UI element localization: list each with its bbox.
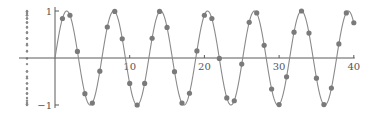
y-tick-label: 1 bbox=[46, 6, 52, 17]
y-tick-label: −1 bbox=[37, 100, 52, 111]
projection-dot bbox=[26, 92, 28, 94]
data-point bbox=[135, 102, 140, 107]
projection-dot bbox=[26, 26, 28, 28]
data-point bbox=[329, 85, 334, 90]
projection-dot bbox=[26, 22, 28, 24]
projection-dot bbox=[26, 100, 28, 102]
data-point bbox=[336, 41, 341, 46]
data-point bbox=[97, 69, 102, 74]
sine-sample-chart: 10203040 1−1 bbox=[0, 0, 373, 113]
data-point bbox=[179, 101, 184, 106]
data-point bbox=[150, 36, 155, 41]
data-point bbox=[247, 20, 252, 25]
data-point bbox=[209, 16, 214, 21]
projection-dot bbox=[26, 97, 28, 99]
data-point bbox=[82, 91, 87, 96]
data-point bbox=[239, 62, 244, 67]
projection-dot bbox=[26, 50, 28, 52]
x-tick-label: 40 bbox=[347, 61, 360, 72]
data-point bbox=[67, 13, 72, 18]
data-point bbox=[269, 86, 274, 91]
data-point bbox=[127, 81, 132, 86]
data-point bbox=[254, 10, 259, 15]
data-point bbox=[224, 95, 229, 100]
projection-dot bbox=[26, 12, 28, 14]
data-point bbox=[262, 43, 267, 48]
x-tick-label: 10 bbox=[123, 61, 136, 72]
data-point bbox=[105, 24, 110, 29]
projection-dot bbox=[26, 70, 28, 72]
data-point bbox=[75, 49, 80, 54]
projection-dot bbox=[26, 32, 28, 34]
projection-dot bbox=[26, 37, 28, 39]
data-point bbox=[284, 74, 289, 79]
data-point bbox=[351, 20, 356, 25]
data-point bbox=[306, 30, 311, 35]
projection-dot bbox=[26, 103, 28, 105]
data-point bbox=[157, 9, 162, 14]
data-point bbox=[172, 69, 177, 74]
data-point bbox=[321, 102, 326, 107]
data-point bbox=[299, 8, 304, 13]
data-point bbox=[202, 13, 207, 18]
data-point bbox=[291, 30, 296, 35]
data-point bbox=[164, 25, 169, 30]
data-point bbox=[187, 91, 192, 96]
data-point bbox=[90, 101, 95, 106]
data-point bbox=[142, 81, 147, 86]
x-tick-label: 20 bbox=[198, 61, 211, 72]
projection-dot bbox=[26, 82, 28, 84]
data-point bbox=[232, 98, 237, 103]
data-point bbox=[344, 10, 349, 15]
data-point bbox=[194, 48, 199, 53]
projection-dot bbox=[26, 63, 28, 65]
data-point bbox=[217, 56, 222, 61]
projection-dot bbox=[26, 43, 28, 45]
projection-dot bbox=[26, 87, 28, 89]
data-point bbox=[314, 76, 319, 81]
projection-dot bbox=[26, 17, 28, 19]
data-point bbox=[277, 102, 282, 107]
data-point bbox=[120, 36, 125, 41]
x-tick-label: 30 bbox=[273, 61, 286, 72]
projection-dot bbox=[26, 14, 28, 16]
data-point bbox=[60, 16, 65, 21]
data-point bbox=[112, 9, 117, 14]
projection-dot bbox=[26, 77, 28, 79]
